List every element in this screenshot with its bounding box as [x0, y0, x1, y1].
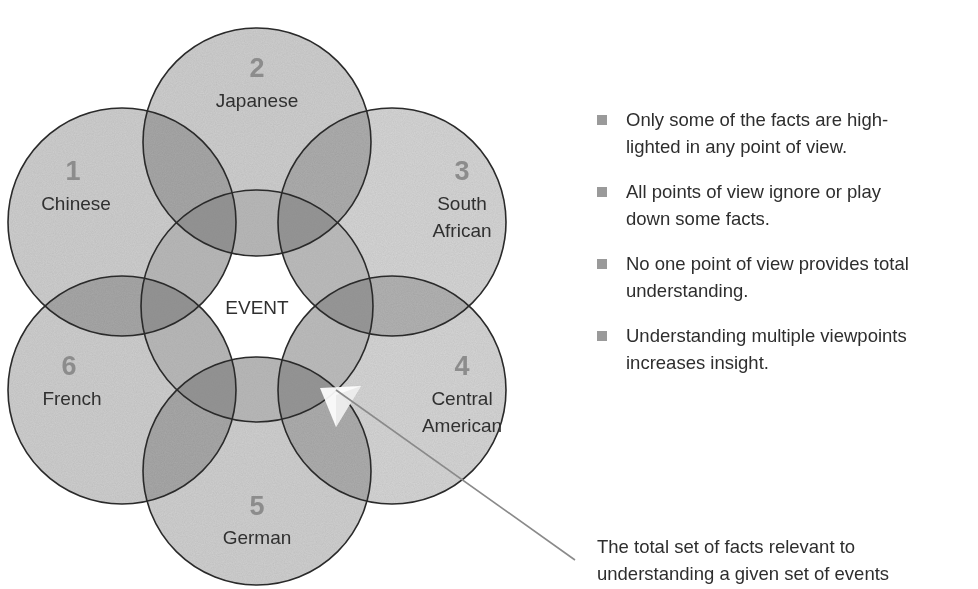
viewpoint-label-south-african-2: African [432, 220, 491, 241]
viewpoints-venn-diagram: 1 Chinese 2 Japanese 3 South African 4 C… [0, 0, 600, 589]
bullet-square-icon [597, 187, 607, 197]
bullet-square-icon [597, 331, 607, 341]
viewpoint-label-french: French [42, 388, 101, 409]
viewpoint-number-6: 6 [61, 351, 76, 381]
viewpoint-number-4: 4 [454, 351, 469, 381]
viewpoint-number-5: 5 [249, 491, 264, 521]
viewpoint-label-german: German [223, 527, 292, 548]
viewpoint-number-2: 2 [249, 53, 264, 83]
viewpoint-label-japanese: Japanese [216, 90, 298, 111]
key-point-2: All points of view ignore or playdown so… [597, 178, 977, 232]
viewpoint-label-central-american-1: Central [431, 388, 492, 409]
viewpoint-label-central-american-2: American [422, 415, 502, 436]
callout-text: The total set of facts relevant to under… [597, 533, 977, 587]
viewpoint-label-south-african-1: South [437, 193, 487, 214]
bullet-square-icon [597, 259, 607, 269]
event-label: EVENT [225, 297, 289, 318]
bullet-square-icon [597, 115, 607, 125]
viewpoint-label-chinese: Chinese [41, 193, 111, 214]
key-point-1: Only some of the facts are high-lighted … [597, 106, 977, 160]
key-point-4: Understanding multiple viewpointsincreas… [597, 322, 977, 376]
viewpoint-number-3: 3 [454, 156, 469, 186]
key-point-3: No one point of view provides totalunder… [597, 250, 977, 304]
key-points-list: Only some of the facts are high-lighted … [597, 106, 977, 394]
viewpoint-number-1: 1 [65, 156, 80, 186]
